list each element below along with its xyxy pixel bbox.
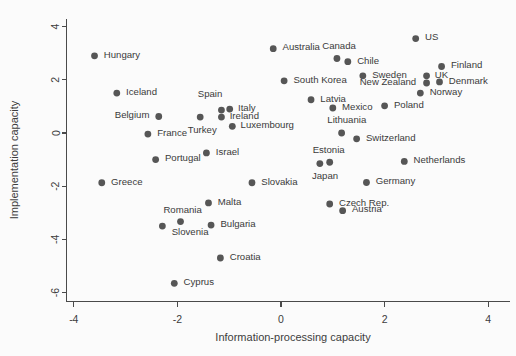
point-label: France — [157, 127, 187, 138]
point-marker[interactable] — [98, 179, 105, 186]
data-point[interactable]: Canada — [322, 40, 356, 62]
point-label: Bulgaria — [220, 218, 256, 229]
data-point[interactable]: US — [412, 31, 438, 42]
data-point[interactable]: Cyprus — [171, 276, 214, 287]
point-marker[interactable] — [270, 45, 277, 52]
point-label: Australia — [283, 41, 321, 52]
data-point[interactable]: France — [144, 127, 187, 138]
point-marker[interactable] — [159, 223, 166, 230]
point-marker[interactable] — [326, 159, 333, 166]
data-point[interactable]: Japan — [312, 160, 338, 181]
point-label: Iceland — [126, 86, 157, 97]
scatter-plot-figure: 420-2-4-6-4-2024 HungaryIcelandBelgiumFr… — [0, 0, 516, 356]
data-point[interactable]: Bulgaria — [208, 218, 257, 229]
point-marker[interactable] — [401, 158, 408, 165]
point-marker[interactable] — [381, 102, 388, 109]
point-marker[interactable] — [281, 77, 288, 84]
data-point[interactable]: Germany — [363, 175, 415, 186]
data-point[interactable]: Norway — [417, 86, 462, 97]
data-point[interactable]: Iceland — [113, 86, 157, 97]
data-point[interactable]: Malta — [205, 196, 242, 207]
point-marker[interactable] — [205, 200, 212, 207]
point-marker[interactable] — [339, 207, 346, 214]
point-label: Estonia — [313, 144, 346, 155]
point-label: Greece — [111, 176, 142, 187]
data-point[interactable]: Lithuania — [327, 114, 367, 136]
point-marker[interactable] — [363, 179, 370, 186]
x-tick-label: 0 — [278, 313, 284, 325]
data-point[interactable]: Portugal — [152, 152, 200, 163]
point-marker[interactable] — [171, 280, 178, 287]
point-marker[interactable] — [249, 179, 256, 186]
point-marker[interactable] — [308, 96, 315, 103]
point-marker[interactable] — [144, 131, 151, 138]
point-marker[interactable] — [412, 35, 419, 42]
data-point[interactable]: Chile — [344, 55, 379, 66]
x-tick-label: -4 — [69, 313, 78, 325]
point-label: US — [425, 31, 438, 42]
data-point[interactable]: Israel — [203, 146, 239, 157]
point-marker[interactable] — [338, 130, 345, 137]
point-marker[interactable] — [329, 105, 336, 112]
point-label: Turkey — [188, 124, 217, 135]
data-point[interactable]: Croatia — [217, 251, 261, 262]
point-marker[interactable] — [423, 72, 430, 79]
point-marker[interactable] — [113, 90, 120, 97]
point-marker[interactable] — [218, 114, 225, 121]
y-tick-label: 4 — [50, 24, 62, 30]
point-marker[interactable] — [155, 113, 162, 120]
point-marker[interactable] — [208, 222, 215, 229]
data-points-group: HungaryIcelandBelgiumFrancePortugalGreec… — [91, 31, 488, 287]
point-marker[interactable] — [316, 160, 323, 167]
point-label: Belgium — [115, 109, 150, 120]
point-marker[interactable] — [91, 52, 98, 59]
y-tick-label: -2 — [50, 181, 62, 190]
data-point[interactable]: Greece — [98, 176, 142, 187]
data-point[interactable]: Slovenia — [159, 223, 209, 238]
data-point[interactable]: Romania — [163, 204, 202, 225]
x-tick-label: 2 — [382, 313, 388, 325]
point-label: Malta — [218, 196, 242, 207]
point-marker[interactable] — [218, 107, 225, 114]
point-marker[interactable] — [326, 201, 333, 208]
data-point[interactable]: New Zealand — [360, 76, 430, 87]
data-point[interactable]: Slovakia — [249, 176, 299, 187]
point-marker[interactable] — [417, 90, 424, 97]
data-point[interactable]: Belgium — [115, 109, 162, 120]
point-marker[interactable] — [177, 218, 184, 225]
point-marker[interactable] — [344, 58, 351, 65]
point-marker[interactable] — [152, 156, 159, 163]
point-marker[interactable] — [229, 123, 236, 130]
data-point[interactable]: Hungary — [91, 49, 140, 60]
point-label: Israel — [216, 146, 239, 157]
point-marker[interactable] — [203, 150, 210, 157]
data-point[interactable]: Australia — [270, 41, 321, 52]
data-point[interactable]: UK — [423, 69, 449, 80]
data-point[interactable]: Switzerland — [353, 132, 415, 143]
point-label: Switzerland — [366, 132, 416, 143]
y-tick-label: -4 — [50, 235, 62, 244]
point-label: South Korea — [293, 74, 347, 85]
point-label: Romania — [163, 204, 202, 215]
point-label: Mexico — [342, 101, 372, 112]
point-label: Portugal — [165, 152, 201, 163]
data-point[interactable]: Netherlands — [401, 154, 466, 165]
point-label: Finland — [451, 59, 482, 70]
point-marker[interactable] — [334, 55, 341, 62]
data-point[interactable]: South Korea — [281, 74, 348, 85]
data-point[interactable]: Spain — [198, 88, 225, 113]
point-label: Croatia — [230, 251, 262, 262]
data-point[interactable]: Poland — [381, 99, 424, 110]
point-label: Austria — [352, 203, 383, 214]
point-marker[interactable] — [197, 114, 204, 121]
point-marker[interactable] — [217, 255, 224, 262]
point-marker[interactable] — [436, 79, 443, 86]
point-marker[interactable] — [353, 135, 360, 142]
y-tick-label: 2 — [50, 77, 62, 83]
point-label: Canada — [322, 40, 356, 51]
data-point[interactable]: Turkey — [188, 114, 217, 135]
point-label: Germany — [376, 175, 416, 186]
x-tick-label: -2 — [173, 313, 182, 325]
x-tick-label: 4 — [485, 313, 491, 325]
data-point[interactable]: Latvia — [308, 93, 347, 104]
